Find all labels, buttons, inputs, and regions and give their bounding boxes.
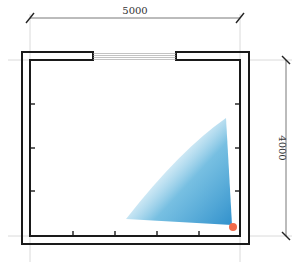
width-label: 5000 (122, 5, 147, 16)
coverage-area (126, 118, 232, 225)
window (93, 54, 176, 60)
height-label: 4000 (277, 135, 288, 160)
floor-plan-diagram: 5000 4000 (0, 0, 299, 266)
sensor-icon (229, 223, 237, 231)
height-dimension: 4000 (277, 56, 290, 240)
width-dimension: 5000 (26, 5, 244, 23)
